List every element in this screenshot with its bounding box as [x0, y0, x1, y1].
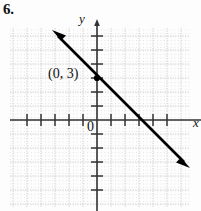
origin-label: 0	[87, 119, 94, 135]
coordinate-plane-graph	[0, 0, 201, 211]
y-axis-label: y	[79, 11, 85, 27]
x-axis-label: x	[193, 115, 199, 131]
figure-container: 6.	[0, 0, 201, 211]
y-intercept-point-label: (0, 3)	[48, 66, 78, 82]
y-intercept-point-marker	[94, 75, 100, 81]
y-axis-arrow-icon	[94, 19, 100, 26]
minor-grid	[10, 28, 190, 207]
